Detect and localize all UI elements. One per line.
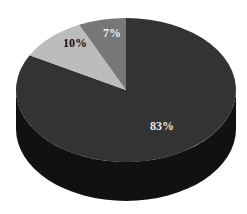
label-83: 83% xyxy=(150,119,174,133)
pie-chart: 83% 10% 7% xyxy=(0,0,247,214)
label-10: 10% xyxy=(63,36,87,50)
label-7: 7% xyxy=(103,26,121,40)
